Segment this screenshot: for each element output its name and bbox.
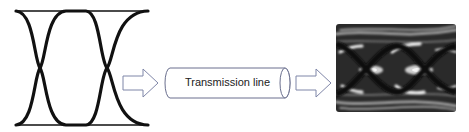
noisy-eye-diagram: [336, 24, 456, 112]
arrow-right-icon: [296, 69, 331, 97]
clean-eye-diagram: [16, 11, 148, 125]
diagram-canvas: [0, 0, 469, 132]
transmission-line-label: Transmission line: [170, 76, 285, 88]
arrow-right-icon: [123, 69, 158, 97]
